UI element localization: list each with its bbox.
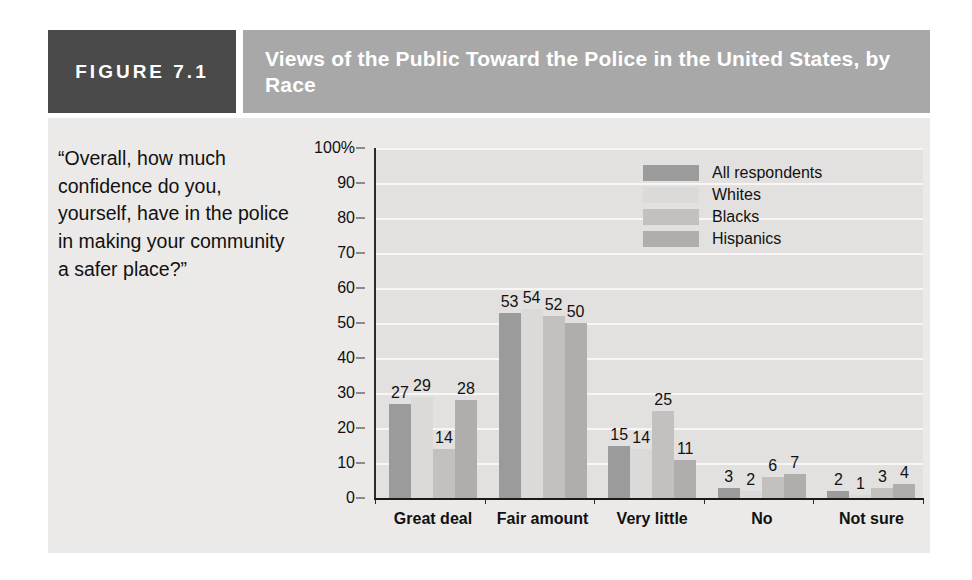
- legend-label: All respondents: [712, 164, 822, 182]
- bar-value-label: 14: [435, 429, 453, 447]
- bar-rect: [674, 460, 696, 499]
- bar-rect: [433, 449, 455, 498]
- x-tick-label: Fair amount: [497, 510, 589, 528]
- bar-rect: [455, 400, 477, 498]
- bar-value-label: 2: [834, 471, 843, 489]
- y-tick-label: 80: [337, 209, 355, 227]
- y-axis: 0102030405060708090100%: [303, 148, 365, 498]
- bar-rect: [762, 477, 784, 498]
- y-tick-label: 0: [346, 489, 355, 507]
- bar-rect: [718, 488, 740, 499]
- bar-rect: [499, 313, 521, 499]
- y-tick-mark: [356, 428, 365, 429]
- x-tick-label: Not sure: [839, 510, 904, 528]
- y-axis-line: [374, 148, 376, 498]
- figure-number-box: FIGURE 7.1: [48, 30, 236, 113]
- y-tick-mark: [356, 393, 365, 394]
- bar-value-label: 25: [654, 391, 672, 409]
- legend-label: Whites: [712, 186, 761, 204]
- bar-value-label: 2: [746, 471, 755, 489]
- legend-label: Blacks: [712, 208, 759, 226]
- bar-group: 2134: [827, 148, 915, 498]
- legend-item: Blacks: [643, 206, 822, 228]
- bar-value-label: 27: [391, 384, 409, 402]
- bar-value-label: 11: [677, 440, 694, 458]
- y-tick-label: 40: [337, 349, 355, 367]
- y-tick-label: 100%: [314, 139, 355, 157]
- bar-group: 27291428: [389, 148, 477, 498]
- legend-swatch: [643, 187, 699, 203]
- y-tick-mark: [356, 218, 365, 219]
- y-tick-mark: [356, 323, 365, 324]
- bar-value-label: 54: [523, 289, 541, 307]
- y-tick-mark: [356, 498, 365, 499]
- y-tick-label: 90: [337, 174, 355, 192]
- figure-number-label: FIGURE 7.1: [75, 61, 208, 83]
- bar-rect: [827, 491, 849, 498]
- bar-rect: [565, 323, 587, 498]
- bar-value-label: 52: [545, 296, 563, 314]
- legend-swatch: [643, 209, 699, 225]
- y-tick-mark: [356, 288, 365, 289]
- x-axis-line: [374, 498, 924, 500]
- bar-value-label: 3: [724, 468, 733, 486]
- legend-swatch: [643, 231, 699, 247]
- figure-header: FIGURE 7.1 Views of the Public Toward th…: [48, 30, 930, 113]
- y-tick-label: 60: [337, 279, 355, 297]
- x-axis: Great dealFair amountVery littleNoNot su…: [375, 510, 923, 538]
- y-tick-mark: [356, 463, 365, 464]
- y-tick-mark: [356, 253, 365, 254]
- figure-body: “Overall, how much confidence do you, yo…: [48, 118, 930, 553]
- bar-value-label: 29: [413, 377, 431, 395]
- bar-value-label: 50: [567, 303, 585, 321]
- bar-rect: [543, 316, 565, 498]
- bar-rect: [608, 446, 630, 499]
- bar-value-label: 7: [790, 454, 799, 472]
- bar-chart: 0102030405060708090100% 2729142853545250…: [303, 148, 923, 548]
- bar-rect: [389, 404, 411, 499]
- y-tick-mark: [356, 148, 365, 149]
- legend-label: Hispanics: [712, 230, 781, 248]
- bar-value-label: 28: [457, 380, 475, 398]
- legend-item: All respondents: [643, 162, 822, 184]
- legend-item: Hispanics: [643, 228, 822, 250]
- y-tick-label: 70: [337, 244, 355, 262]
- bar-group: 53545250: [499, 148, 587, 498]
- chart-legend: All respondentsWhitesBlacksHispanics: [643, 162, 822, 250]
- figure-root: FIGURE 7.1 Views of the Public Toward th…: [0, 0, 972, 580]
- bar-value-label: 15: [610, 426, 628, 444]
- bar-rect: [652, 411, 674, 499]
- bar-rect: [871, 488, 893, 499]
- bar-rect: [893, 484, 915, 498]
- figure-title-box: Views of the Public Toward the Police in…: [243, 30, 930, 113]
- y-tick-label: 20: [337, 419, 355, 437]
- bar-rect: [784, 474, 806, 499]
- y-tick-label: 10: [337, 454, 355, 472]
- legend-swatch: [643, 165, 699, 181]
- bar-rect: [630, 449, 652, 498]
- bar-value-label: 14: [632, 429, 650, 447]
- bar-value-label: 3: [878, 468, 887, 486]
- bar-value-label: 6: [768, 457, 777, 475]
- bar-value-label: 53: [501, 293, 519, 311]
- x-tick-label: Great deal: [394, 510, 472, 528]
- figure-title: Views of the Public Toward the Police in…: [243, 46, 930, 97]
- bar-rect: [740, 491, 762, 498]
- legend-item: Whites: [643, 184, 822, 206]
- x-tick-label: Very little: [617, 510, 688, 528]
- bar-value-label: 4: [900, 464, 909, 482]
- bar-rect: [411, 397, 433, 499]
- y-tick-mark: [356, 183, 365, 184]
- x-tick-label: No: [751, 510, 772, 528]
- y-tick-label: 30: [337, 384, 355, 402]
- y-tick-label: 50: [337, 314, 355, 332]
- survey-question-text: “Overall, how much confidence do you, yo…: [58, 145, 296, 283]
- bar-value-label: 1: [856, 475, 865, 493]
- y-tick-mark: [356, 358, 365, 359]
- bar-rect: [521, 309, 543, 498]
